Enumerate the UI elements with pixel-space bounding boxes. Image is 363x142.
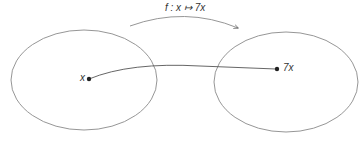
codomain-set-ellipse <box>214 32 358 132</box>
codomain-point-label: 7x <box>283 63 294 73</box>
element-mapping-curve <box>89 65 276 79</box>
function-label: f : x ↦ 7x <box>165 3 205 13</box>
codomain-point <box>275 67 279 71</box>
domain-point-label: x <box>80 73 85 83</box>
domain-point <box>87 77 91 81</box>
mapping-diagram <box>0 0 363 142</box>
function-arrow <box>130 16 238 28</box>
